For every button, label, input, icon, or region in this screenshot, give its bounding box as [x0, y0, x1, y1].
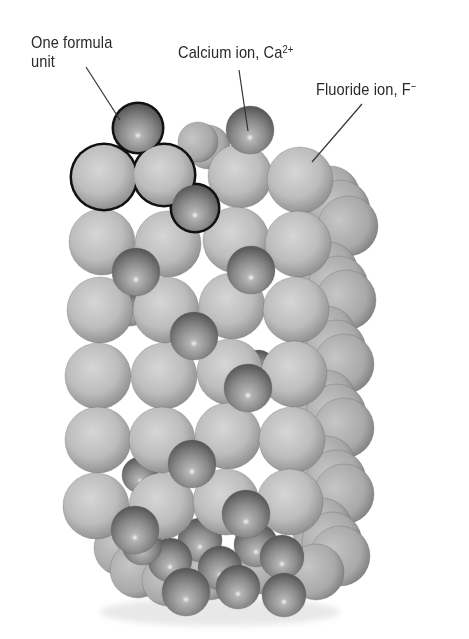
formula-unit-label: One formula unit: [31, 33, 112, 71]
fluoride-ion: [263, 277, 329, 343]
calcium-ion: [260, 535, 304, 579]
calcium-ion-label: Calcium ion, Ca2+: [178, 43, 293, 62]
fluoride-ion: [261, 341, 327, 407]
calcium-ion: [227, 246, 275, 294]
formula-unit-fluoride-ion: [72, 145, 136, 209]
calcium-ion: [112, 248, 160, 296]
calcium-ion: [222, 490, 270, 538]
calcium-charge: 2+: [282, 43, 293, 55]
fluoride-ion: [65, 343, 131, 409]
formula-unit-label-line2: unit: [31, 52, 112, 71]
calcium-ion: [224, 364, 272, 412]
fluoride-ion: [267, 147, 333, 213]
calcium-ion: [226, 106, 274, 154]
calcium-ion: [111, 506, 159, 554]
formula-unit-leader: [86, 67, 120, 120]
fluoride-charge: −: [411, 80, 417, 92]
fluoride-ion: [259, 407, 325, 473]
fluorite-lattice-diagram: One formula unit Calcium ion, Ca2+ Fluor…: [0, 0, 469, 639]
calcium-ion: [162, 568, 210, 616]
calcium-ion: [170, 312, 218, 360]
fluoride-ion-label-text: Fluoride ion, F: [316, 80, 411, 99]
calcium-ion-label-text: Calcium ion, Ca: [178, 43, 282, 62]
formula-unit-label-line1: One formula: [31, 33, 112, 52]
fluoride-ion-label: Fluoride ion, F−: [316, 80, 416, 99]
fluoride-ion: [65, 407, 131, 473]
calcium-ion: [168, 440, 216, 488]
fluoride-leader: [312, 104, 362, 162]
formula-unit-calcium-ion: [114, 104, 162, 152]
calcium-ion: [216, 565, 260, 609]
formula-unit-calcium-ion: [172, 185, 218, 231]
calcium-ion: [262, 573, 306, 617]
